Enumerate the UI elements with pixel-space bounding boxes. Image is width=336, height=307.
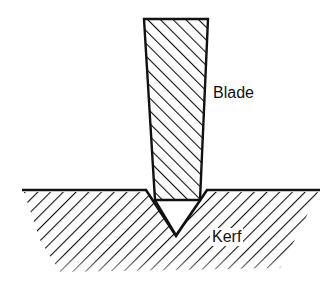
kerf-diagram <box>0 0 336 307</box>
kerf-label: Kerf <box>210 228 243 246</box>
blade <box>144 19 208 200</box>
blade-label: Blade <box>213 84 254 102</box>
workpiece <box>20 190 320 290</box>
